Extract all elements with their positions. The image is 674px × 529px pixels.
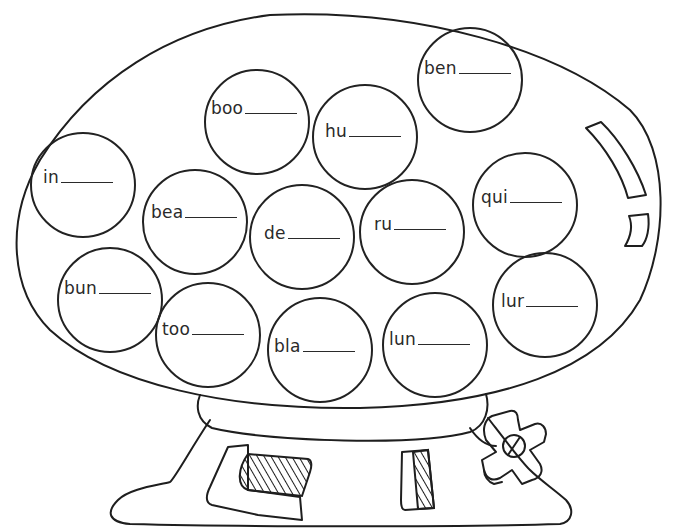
word-prefix: lur bbox=[501, 291, 524, 311]
gumball-ben bbox=[417, 27, 523, 133]
return-slot-hatch bbox=[413, 450, 434, 509]
answer-blank[interactable] bbox=[288, 224, 340, 239]
word-prompt: lur bbox=[501, 291, 578, 311]
answer-blank[interactable] bbox=[99, 279, 151, 294]
word-prompt: hu bbox=[325, 121, 401, 141]
word-prompt: boo bbox=[211, 98, 297, 118]
word-prefix: bea bbox=[151, 202, 183, 222]
answer-blank[interactable] bbox=[61, 168, 113, 183]
word-prefix: boo bbox=[211, 98, 243, 118]
word-prefix: ru bbox=[374, 214, 392, 234]
word-prompt: bla bbox=[274, 336, 355, 356]
word-prefix: bla bbox=[274, 336, 301, 356]
word-prefix: too bbox=[162, 319, 190, 339]
word-prefix: de bbox=[264, 223, 286, 243]
word-prompt: ru bbox=[374, 214, 446, 234]
answer-blank[interactable] bbox=[185, 203, 237, 218]
word-prompt: in bbox=[43, 167, 113, 187]
word-prompt: qui bbox=[481, 187, 562, 207]
word-prefix: in bbox=[43, 167, 59, 187]
answer-blank[interactable] bbox=[526, 292, 578, 307]
word-prompt: too bbox=[162, 319, 244, 339]
globe-highlight-long bbox=[586, 122, 646, 198]
word-prompt: lun bbox=[389, 329, 470, 349]
word-prefix: qui bbox=[481, 187, 508, 207]
word-prompt: de bbox=[264, 223, 340, 243]
answer-blank[interactable] bbox=[303, 337, 355, 352]
knob-cross-shadow bbox=[484, 470, 502, 484]
word-prefix: hu bbox=[325, 121, 347, 141]
answer-blank[interactable] bbox=[394, 215, 446, 230]
word-prefix: ben bbox=[424, 58, 457, 78]
gumball-bea bbox=[142, 169, 248, 275]
base-body bbox=[111, 418, 572, 526]
word-prefix: bun bbox=[64, 278, 97, 298]
word-prefix: lun bbox=[389, 329, 416, 349]
answer-blank[interactable] bbox=[349, 122, 401, 137]
answer-blank[interactable] bbox=[192, 320, 244, 335]
globe-highlight-short bbox=[625, 214, 649, 246]
answer-blank[interactable] bbox=[245, 99, 297, 114]
answer-blank[interactable] bbox=[418, 330, 470, 345]
word-prompt: bun bbox=[64, 278, 151, 298]
gumball-boo bbox=[204, 69, 310, 175]
word-prompt: ben bbox=[424, 58, 511, 78]
answer-blank[interactable] bbox=[510, 188, 562, 203]
gumball-bun bbox=[57, 247, 163, 353]
coin-slot-hatch bbox=[240, 454, 312, 496]
gumball-machine-worksheet: inboohubenquibeaderubuntooblalunlur bbox=[0, 0, 674, 529]
word-prompt: bea bbox=[151, 202, 237, 222]
answer-blank[interactable] bbox=[459, 59, 511, 74]
